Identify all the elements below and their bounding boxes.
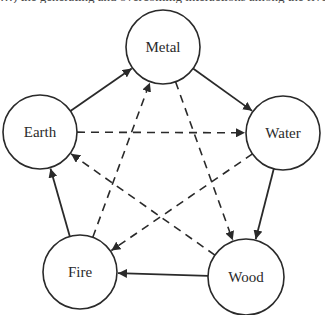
node-label-wood: Wood xyxy=(228,269,264,285)
node-label-water: Water xyxy=(265,125,300,141)
node-fire: Fire xyxy=(43,235,117,309)
arrow-fire-to-metal xyxy=(93,83,150,238)
arrow-earth-to-metal xyxy=(70,69,131,111)
arrow-wood-to-fire xyxy=(118,273,208,276)
node-wood: Wood xyxy=(208,239,284,315)
node-metal: Metal xyxy=(126,10,200,84)
arrow-earth-to-water xyxy=(77,132,245,133)
node-label-fire: Fire xyxy=(68,264,93,280)
nodes-layer: MetalEarthWaterFireWood xyxy=(3,10,320,315)
arrow-water-to-fire xyxy=(111,154,252,251)
node-water: Water xyxy=(246,96,320,170)
arrow-water-to-wood xyxy=(256,169,274,239)
arrow-fire-to-earth xyxy=(50,169,69,237)
node-earth: Earth xyxy=(3,95,77,169)
node-label-metal: Metal xyxy=(146,39,181,55)
node-label-earth: Earth xyxy=(24,124,57,140)
arrow-metal-to-wood xyxy=(176,82,233,241)
five-elements-diagram: MetalEarthWaterFireWood xyxy=(0,0,325,315)
arrow-metal-to-water xyxy=(193,69,252,111)
